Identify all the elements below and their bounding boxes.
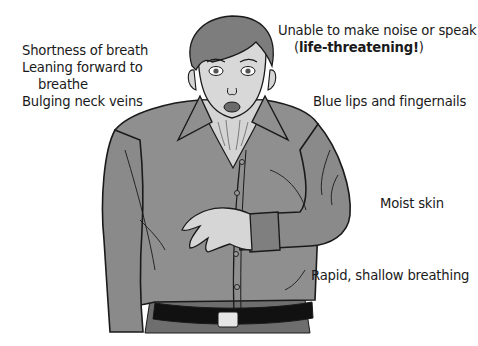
label-shortness-of-breath: Shortness of breath xyxy=(22,42,148,59)
shirt-button xyxy=(235,285,240,290)
label-rapid-breathing: Rapid, shallow breathing xyxy=(311,267,469,284)
label-unable-to-speak: Unable to make noise or speak xyxy=(278,22,476,39)
label-speak-group: Unable to make noise or speak (life-thre… xyxy=(278,22,476,56)
label-leaning-forward: Leaning forward to xyxy=(22,59,148,76)
shirt-cuff xyxy=(248,212,280,252)
label-blue-lips: Blue lips and fingernails xyxy=(313,93,466,110)
shirt-button xyxy=(234,252,239,257)
label-moist-skin: Moist skin xyxy=(380,195,444,212)
label-life-threatening: life-threatening! xyxy=(299,40,419,55)
paren-close: ) xyxy=(419,40,424,55)
label-life-threatening-line: (life-threatening!) xyxy=(278,39,476,56)
shirt-button xyxy=(240,160,245,165)
label-breathe: breathe xyxy=(22,76,148,93)
belt-buckle xyxy=(218,312,238,327)
label-left-group: Shortness of breath Leaning forward to b… xyxy=(22,42,148,110)
open-mouth xyxy=(224,102,240,112)
shirt-button xyxy=(235,191,240,196)
label-bulging-neck-veins: Bulging neck veins xyxy=(22,93,148,110)
left-arm xyxy=(102,130,143,332)
